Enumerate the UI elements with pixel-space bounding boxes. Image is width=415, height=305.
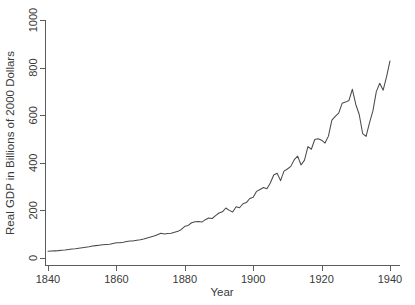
x-axis-title: Year	[210, 286, 233, 298]
y-tick-label: 1000	[27, 8, 39, 32]
chart-figure: 02004006008001000 1840186018801900192019…	[0, 0, 415, 305]
y-tick-label: 0	[27, 255, 39, 261]
chart-background	[0, 0, 415, 305]
y-axis-title: Real GDP in Billions of 2000 Dollars	[4, 51, 16, 235]
y-tick-label: 600	[27, 106, 39, 124]
y-tick-label: 200	[27, 201, 39, 219]
x-tick-label: 1940	[378, 273, 402, 285]
chart-canvas: 02004006008001000 1840186018801900192019…	[0, 0, 415, 305]
x-tick-label: 1920	[309, 273, 333, 285]
y-tick-label: 400	[27, 154, 39, 172]
x-tick-label: 1860	[104, 273, 128, 285]
x-tick-label: 1880	[173, 273, 197, 285]
x-tick-label: 1900	[241, 273, 265, 285]
x-tick-label: 1840	[36, 273, 60, 285]
y-tick-label: 800	[27, 58, 39, 76]
